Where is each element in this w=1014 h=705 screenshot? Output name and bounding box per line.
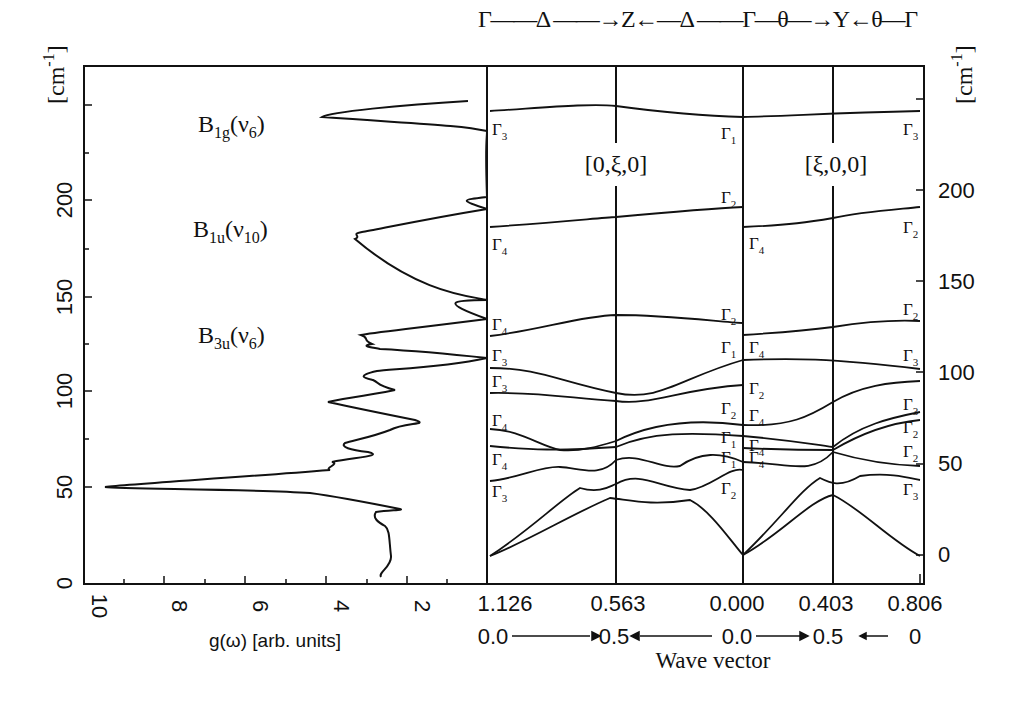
- svg-text:Γ1: Γ1: [721, 428, 736, 450]
- top-tick-4: 0.403: [798, 591, 853, 616]
- right-y-tick-50: 50: [938, 451, 962, 476]
- svg-text:Γ3: Γ3: [903, 480, 919, 502]
- peak-label-b1u: B1u(ν10): [193, 216, 268, 246]
- svg-text:Γ4: Γ4: [749, 338, 765, 360]
- svg-text:Γ4: Γ4: [749, 234, 765, 256]
- left-y-tick-0: 0: [52, 577, 77, 589]
- direction-label-0xi0: [0,ξ,0]: [585, 151, 648, 177]
- right-y-tick-100: 100: [938, 360, 975, 385]
- svg-text:Γ4: Γ4: [492, 315, 508, 337]
- svg-text:Γ1: Γ1: [721, 124, 736, 146]
- svg-text:Γ3: Γ3: [492, 346, 508, 368]
- right-y-tick-150: 150: [938, 269, 975, 294]
- left-y-tick-50: 50: [52, 475, 77, 499]
- svg-text:Γ4: Γ4: [749, 406, 765, 428]
- svg-text:Γ3: Γ3: [903, 395, 919, 417]
- top-tick-2: 0.563: [590, 591, 645, 616]
- svg-text:Γ2: Γ2: [903, 218, 918, 240]
- svg-text:Γ3: Γ3: [903, 346, 919, 368]
- svg-text:Γ3: Γ3: [492, 482, 508, 504]
- x-tick-6: 6: [248, 600, 273, 612]
- peak-label-b1g: B1g(ν6): [198, 111, 265, 142]
- left-y-tick-200: 200: [52, 182, 77, 219]
- x-tick-2: 2: [410, 600, 435, 612]
- svg-text:Γ1: Γ1: [721, 338, 736, 360]
- svg-text:Γ2: Γ2: [721, 479, 736, 501]
- bottom-tick-5: 0: [909, 624, 921, 649]
- bottom-tick-2: 0.5: [599, 624, 630, 649]
- bottom-tick-4: 0.5: [813, 624, 844, 649]
- branch-labels: Γ3 Γ4 Γ4 Γ3 Γ3 Γ4 Γ4 Γ3 Γ1 Γ2 Γ2 Γ1 Γ2 Γ…: [492, 120, 919, 504]
- top-tick-3: 0.000: [709, 591, 764, 616]
- svg-text:Γ2: Γ2: [721, 399, 736, 421]
- right-y-tick-0: 0: [938, 542, 950, 567]
- svg-text:Γ1: Γ1: [721, 448, 736, 470]
- peak-label-b3u: B3u(ν6): [198, 322, 265, 352]
- direction-label-xi00: [ξ,0,0]: [805, 151, 868, 177]
- right-y-tick-200: 200: [938, 178, 975, 203]
- svg-text:Γ3: Γ3: [492, 372, 508, 394]
- top-tick-1: 1.126: [477, 591, 532, 616]
- svg-text:Γ2: Γ2: [903, 442, 918, 464]
- svg-text:Γ2: Γ2: [721, 305, 736, 327]
- svg-text:Γ2: Γ2: [903, 300, 918, 322]
- phonon-figure: Γ——Δ ——→Z←—Δ ——Γ—θ—→Y←θ—Γ [cm-1] 0 50 10…: [0, 0, 1014, 705]
- bottom-tick-1: 0.0: [478, 624, 509, 649]
- x-tick-4: 4: [329, 600, 354, 612]
- dos-x-label: g(ω) [arb. units]: [209, 630, 341, 651]
- right-unit: [cm-1]: [948, 45, 977, 104]
- svg-text:Γ3: Γ3: [903, 120, 919, 142]
- x-tick-8: 8: [167, 600, 192, 612]
- x-tick-10: 10: [87, 594, 112, 618]
- svg-text:Γ3: Γ3: [492, 120, 508, 142]
- dos-curve: [105, 101, 487, 577]
- svg-text:Γ4: Γ4: [492, 235, 508, 257]
- left-y-tick-150: 150: [52, 279, 77, 316]
- bottom-tick-3: 0.0: [722, 624, 753, 649]
- left-unit: [cm-1]: [40, 45, 69, 104]
- wave-vector-label: Wave vector: [656, 648, 771, 673]
- path-header: Γ——Δ ——→Z←—Δ ——Γ—θ—→Y←θ—Γ: [478, 6, 918, 32]
- svg-text:Γ4: Γ4: [492, 411, 508, 433]
- svg-text:Γ2: Γ2: [721, 188, 736, 210]
- left-y-tick-100: 100: [52, 373, 77, 410]
- top-tick-5: 0.806: [887, 591, 942, 616]
- svg-text:Γ2: Γ2: [749, 379, 764, 401]
- svg-text:Γ4: Γ4: [492, 450, 508, 472]
